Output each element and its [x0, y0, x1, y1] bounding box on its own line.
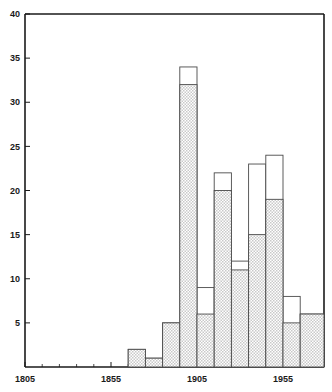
- bar-shaded-1935: [249, 235, 266, 367]
- bar-shaded-1905: [197, 314, 214, 367]
- x-tick-label-1855: 1855: [101, 374, 121, 384]
- histogram-chart: 510152025303540 1805185519051955: [0, 0, 332, 392]
- x-axis-labels: 1805185519051955: [15, 374, 293, 384]
- y-tick-label-10: 10: [10, 274, 20, 284]
- y-tick-label-40: 40: [10, 9, 20, 19]
- y-tick-label-30: 30: [10, 97, 20, 107]
- bar-shaded-1915: [214, 191, 231, 368]
- histogram-svg: 510152025303540 1805185519051955: [0, 0, 332, 392]
- y-tick-label-15: 15: [10, 230, 20, 240]
- y-tick-label-25: 25: [10, 142, 20, 152]
- bar-shaded-1955: [283, 323, 300, 367]
- x-tick-label-1805: 1805: [15, 374, 35, 384]
- bar-shaded-1945: [266, 199, 283, 367]
- y-tick-label-35: 35: [10, 53, 20, 63]
- bar-shaded-1875: [145, 358, 162, 367]
- y-axis-labels: 510152025303540: [10, 9, 20, 328]
- y-tick-label-5: 5: [15, 318, 20, 328]
- y-tick-label-20: 20: [10, 186, 20, 196]
- x-tick-label-1905: 1905: [187, 374, 207, 384]
- bars-shaded-group: [128, 85, 324, 367]
- bar-shaded-1895: [180, 85, 197, 367]
- bar-shaded-1925: [231, 270, 248, 367]
- bar-shaded-1965: [300, 314, 324, 367]
- x-tick-label-1955: 1955: [273, 374, 293, 384]
- bar-shaded-1865: [128, 349, 145, 367]
- bar-shaded-1885: [163, 323, 180, 367]
